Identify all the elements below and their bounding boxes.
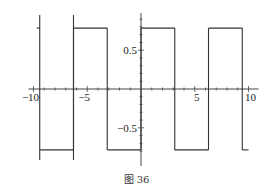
plot-lines (37, 15, 249, 160)
x-tick-label: −10 (22, 91, 40, 103)
x-tick-label: 5 (194, 91, 200, 103)
x-tick-label: −5 (78, 91, 90, 103)
chart: −10−55100.5−0.5 (0, 0, 273, 196)
axes (29, 13, 259, 166)
y-tick-label: −0.5 (117, 122, 137, 134)
x-tick-label: 10 (245, 91, 257, 103)
figure-caption: 图 36 (0, 171, 273, 186)
y-tick-label: 0.5 (123, 44, 137, 56)
